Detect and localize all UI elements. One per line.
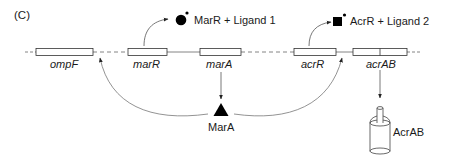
gene-label-acrr: acrR	[301, 58, 324, 71]
acrab-protein-label: AcrAB	[393, 126, 424, 139]
gene-box-ompf	[36, 49, 93, 56]
gene-label-marr: marR	[133, 58, 160, 71]
mara-protein-label: MarA	[208, 121, 234, 134]
gene-box-acrr	[294, 49, 336, 56]
panel-label: (C)	[14, 9, 30, 22]
marr-expression-arrow	[144, 19, 168, 46]
acrr-complex-label: AcrR + Ligand 2	[350, 15, 429, 28]
acrab-pump-icon	[370, 107, 390, 154]
acrr-ligand-icon	[333, 17, 342, 26]
marr-ligand-icon	[176, 15, 187, 26]
gene-label-acrab: acrAB	[366, 58, 396, 71]
gene-box-mara	[200, 49, 241, 56]
mara-protein-icon	[214, 103, 229, 116]
marr-complex-label: MarR + Ligand 1	[194, 14, 276, 27]
mara-to-acrab-arrow	[234, 58, 342, 116]
gene-label-mara: marA	[206, 58, 232, 71]
gene-label-ompf: ompF	[50, 58, 78, 71]
gene-box-marr	[128, 49, 167, 56]
acrr-expression-arrow	[309, 22, 331, 46]
